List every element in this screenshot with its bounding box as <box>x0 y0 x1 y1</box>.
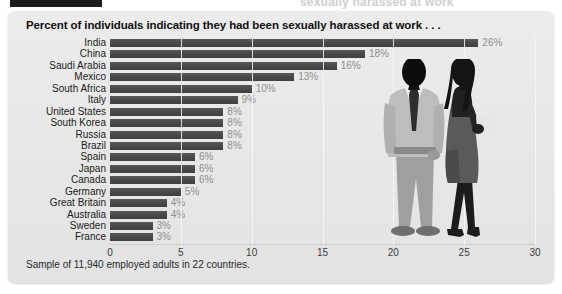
bar-value-label: 6% <box>199 174 213 185</box>
gridline <box>535 37 536 245</box>
gridline <box>181 37 182 245</box>
chart-panel: Percent of individuals indicating they h… <box>8 11 554 283</box>
category-label: United States <box>46 106 106 117</box>
x-tick-label: 25 <box>459 247 470 258</box>
category-label: Italy <box>88 94 106 105</box>
category-label: India <box>84 37 106 48</box>
category-label: South Korea <box>50 117 106 128</box>
category-label: Brazil <box>81 140 106 151</box>
cut-off-headline-text: sexually harassed at work <box>300 0 454 9</box>
category-label: Spain <box>80 151 106 162</box>
gridline <box>464 37 465 245</box>
bar <box>110 108 223 116</box>
bar-value-label: 8% <box>227 117 241 128</box>
bar <box>110 153 195 161</box>
bar-value-label: 4% <box>171 209 185 220</box>
bar <box>110 222 153 230</box>
x-tick-label: 10 <box>246 247 257 258</box>
category-label: Japan <box>79 163 106 174</box>
black-header-bar <box>10 0 102 7</box>
category-label: Australia <box>67 209 106 220</box>
plot-area: India26%China18%Saudi Arabia16%Mexico13%… <box>8 11 554 283</box>
bar <box>110 199 167 207</box>
bar-rows: India26%China18%Saudi Arabia16%Mexico13%… <box>8 38 554 244</box>
bar <box>110 233 153 241</box>
gridline <box>323 37 324 245</box>
bar-value-label: 8% <box>227 140 241 151</box>
category-label: Canada <box>71 174 106 185</box>
x-tick-label: 15 <box>317 247 328 258</box>
x-tick-label: 30 <box>529 247 540 258</box>
category-label: Germany <box>65 186 106 197</box>
bar-value-label: 16% <box>341 60 361 71</box>
bar <box>110 73 294 81</box>
chart-screenshot: sexually harassed at work Percent of ind… <box>0 0 562 294</box>
category-label: Mexico <box>74 71 106 82</box>
bar <box>110 62 337 70</box>
gridline <box>252 37 253 245</box>
bar-value-label: 18% <box>369 48 389 59</box>
bar <box>110 176 195 184</box>
bar-value-label: 10% <box>256 83 276 94</box>
category-label: Sweden <box>70 220 106 231</box>
bar <box>110 165 195 173</box>
bar-value-label: 6% <box>199 151 213 162</box>
bar-value-label: 8% <box>227 106 241 117</box>
category-label: Russia <box>75 129 106 140</box>
bar-value-label: 13% <box>298 71 318 82</box>
bar <box>110 211 167 219</box>
bar-value-label: 26% <box>482 37 502 48</box>
top-cut-off-strip: sexually harassed at work <box>0 0 562 11</box>
bar-value-label: 4% <box>171 197 185 208</box>
bar <box>110 119 223 127</box>
x-tick-label: 20 <box>388 247 399 258</box>
bar <box>110 131 223 139</box>
bar-value-label: 3% <box>157 231 171 242</box>
bar-value-label: 9% <box>242 94 256 105</box>
bar <box>110 142 223 150</box>
bar-value-label: 5% <box>185 186 199 197</box>
category-label: Great Britain <box>50 197 106 208</box>
x-tick-label: 5 <box>178 247 184 258</box>
x-tick-label: 0 <box>107 247 113 258</box>
category-label: South Africa <box>52 83 106 94</box>
bar <box>110 96 238 104</box>
gridline <box>393 37 394 245</box>
bar <box>110 188 181 196</box>
bar-value-label: 8% <box>227 129 241 140</box>
bar <box>110 50 365 58</box>
category-label: China <box>80 48 106 59</box>
bar <box>110 39 478 47</box>
bar-value-label: 6% <box>199 163 213 174</box>
bar-value-label: 3% <box>157 220 171 231</box>
bar-row: France3% <box>8 232 554 243</box>
chart-footnote: Sample of 11,940 employed adults in 22 c… <box>26 259 250 270</box>
category-label: France <box>75 231 106 242</box>
category-label: Saudi Arabia <box>49 60 106 71</box>
